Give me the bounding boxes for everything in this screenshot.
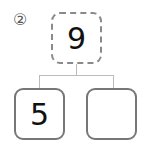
root-value: 9 — [67, 21, 86, 56]
right-part-answer-box[interactable] — [86, 88, 137, 140]
problem-number: ② — [13, 11, 27, 29]
connector-left — [39, 75, 40, 88]
connector-stem — [76, 64, 77, 75]
root-number-box: 9 — [51, 12, 102, 64]
left-part-box: 5 — [14, 88, 65, 140]
left-part-value: 5 — [30, 97, 49, 132]
connector-bar — [39, 75, 114, 76]
connector-right — [113, 75, 114, 88]
